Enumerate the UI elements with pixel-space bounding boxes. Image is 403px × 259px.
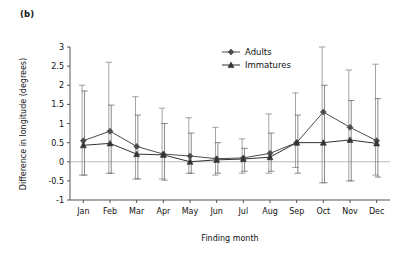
chart-canvas: -1-0.500.511.522.53 JanFebMarAprMayJunJu…	[0, 0, 403, 259]
legend-label: Immatures	[245, 60, 292, 70]
y-tick-label: 2.5	[51, 62, 64, 71]
x-tick-label: Mar	[129, 207, 145, 216]
y-tick-label: 2	[59, 81, 64, 90]
data-point-marker	[228, 49, 234, 55]
x-tick-label: Jul	[238, 207, 249, 216]
axes-group	[70, 47, 390, 200]
legend-label: Adults	[245, 47, 272, 57]
data-point-marker	[187, 153, 193, 159]
x-axis-title: Finding month	[201, 234, 258, 243]
x-tick-label: Oct	[316, 207, 330, 216]
y-axis-ticks: -1-0.500.511.522.53	[48, 43, 70, 205]
y-tick-label: -0.5	[48, 177, 64, 186]
x-tick-label: Aug	[262, 207, 278, 216]
y-axis-title: Difference in longitude (degrees)	[19, 58, 28, 190]
data-point-marker	[347, 124, 353, 130]
error-bars-immatures	[81, 85, 381, 183]
figure-panel: (b) -1-0.500.511.522.53 JanFebMarAprMayJ…	[0, 0, 403, 259]
chart-legend: AdultsImmatures	[222, 47, 292, 70]
x-tick-label: Apr	[156, 207, 171, 216]
x-axis-ticks: JanFebMarAprMayJunJulAugSepOctNovDec	[76, 200, 384, 216]
x-tick-label: Sep	[289, 207, 304, 216]
series-markers-adults	[80, 109, 379, 162]
y-tick-label: 0.5	[51, 139, 64, 148]
x-tick-label: Nov	[342, 207, 358, 216]
x-tick-label: Feb	[103, 207, 117, 216]
y-tick-label: 1	[59, 120, 64, 129]
y-tick-label: -1	[56, 196, 64, 205]
data-point-marker	[134, 143, 140, 149]
y-tick-label: 0	[59, 158, 64, 167]
x-tick-label: Jan	[76, 207, 89, 216]
series-line-adults	[83, 112, 376, 159]
x-tick-label: Dec	[369, 207, 384, 216]
x-tick-label: Jun	[209, 207, 223, 216]
y-tick-label: 3	[59, 43, 64, 52]
y-tick-label: 1.5	[51, 100, 64, 109]
x-tick-label: May	[182, 207, 199, 216]
data-point-marker	[107, 128, 113, 134]
